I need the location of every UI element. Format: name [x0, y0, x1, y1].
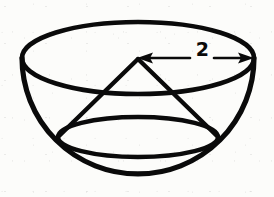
hemisphere-cone-diagram [0, 0, 274, 197]
cone-base-ellipse [58, 117, 218, 157]
cone-left-slant-edge [59, 59, 138, 136]
cone-right-slant-edge [138, 59, 217, 136]
figure-canvas: 2 [0, 0, 274, 197]
dimension-label-2: 2 [192, 38, 212, 60]
